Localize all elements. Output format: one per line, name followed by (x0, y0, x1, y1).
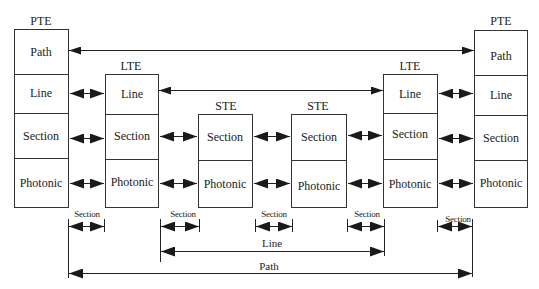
section-span-5: Section (438, 214, 473, 277)
section-span-3: Section (256, 209, 293, 232)
lte-right-photonic-layer: Photonic (389, 177, 432, 191)
section-span-label: Section (170, 209, 196, 219)
sonet-layer-diagram: PTE Path Line Section Photonic LTE Line … (0, 0, 539, 289)
ste-2-photonic-layer: Photonic (298, 179, 341, 193)
section-span-label: Section (354, 209, 380, 219)
section-span-1: Section (69, 209, 105, 235)
section-span-2: Section (161, 209, 200, 235)
pte-right-line-layer: Line (490, 88, 512, 102)
pte-right-photonic-layer: Photonic (480, 176, 523, 190)
lte-left-title: LTE (121, 59, 142, 73)
ste-2-title: STE (307, 99, 328, 113)
pte-left-section-layer: Section (23, 129, 59, 143)
lte-left-photonic-layer: Photonic (111, 175, 154, 189)
section-span-4: Section (348, 209, 385, 256)
pte-left-path-layer: Path (30, 45, 51, 59)
span-dimensions: Section Section Section Section Section (69, 209, 473, 278)
pte-right-title: PTE (490, 14, 511, 28)
pte-left-line-layer: Line (30, 86, 52, 100)
ste-1-title: STE (215, 99, 236, 113)
lte-right-node: LTE Line Section Photonic (384, 59, 438, 208)
pte-left-photonic-layer: Photonic (20, 176, 63, 190)
lte-left-line-layer: Line (121, 87, 143, 101)
ste-2-node: STE Section Photonic (292, 99, 347, 208)
pte-right-section-layer: Section (483, 131, 519, 145)
lte-left-section-layer: Section (114, 129, 150, 143)
ste-1-section-layer: Section (207, 130, 243, 144)
pte-left-title: PTE (30, 14, 51, 28)
section-span-label: Section (74, 209, 100, 219)
pte-right-path-layer: Path (490, 49, 511, 63)
pte-left-node: PTE Path Line Section Photonic (15, 14, 69, 208)
lte-right-section-layer: Section (392, 127, 428, 141)
lte-right-title: LTE (400, 59, 421, 73)
ste-1-node: STE Section Photonic (199, 99, 253, 208)
path-span-label: Path (259, 260, 279, 272)
pte-right-node: PTE Path Line Section Photonic (475, 14, 528, 208)
section-span-label: Section (445, 214, 471, 224)
lte-left-node: LTE Line Section Photonic (106, 59, 159, 208)
section-span-label: Section (261, 209, 287, 219)
line-span: Line (161, 235, 385, 262)
lte-right-line-layer: Line (399, 87, 421, 101)
ste-1-photonic-layer: Photonic (204, 177, 247, 191)
ste-2-section-layer: Section (301, 130, 337, 144)
line-span-label: Line (262, 237, 282, 249)
